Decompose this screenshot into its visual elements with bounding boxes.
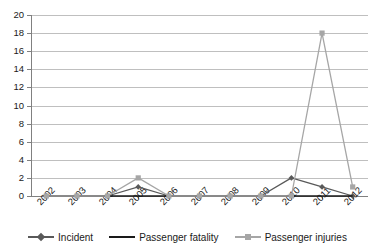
y-tick-mark [27,69,31,70]
gridline [31,69,368,70]
gridline [31,160,368,161]
legend-item-incident[interactable]: Incident [28,232,93,243]
y-tick-label: 18 [0,28,24,38]
legend-item-passenger-injuries[interactable]: Passenger injuries [235,232,347,243]
legend-item-passenger-fatality[interactable]: Passenger fatality [109,232,219,243]
y-tick-label: 4 [0,155,24,165]
gridline [31,51,368,52]
y-tick-mark [27,124,31,125]
y-tick-mark [27,196,31,197]
gridline [31,106,368,107]
y-tick-mark [27,33,31,34]
y-axis-line [31,15,32,196]
y-tick-mark [27,51,31,52]
y-tick-label: 12 [0,82,24,92]
y-tick-label: 20 [0,10,24,20]
y-tick-mark [27,178,31,179]
gridline [31,87,368,88]
gridline [31,178,368,179]
y-tick-label: 14 [0,64,24,74]
legend-swatch-icon [109,232,135,242]
y-tick-mark [27,142,31,143]
legend-label: Incident [58,232,93,243]
legend-label: Passenger fatality [139,232,219,243]
y-tick-label: 10 [0,101,24,111]
legend-swatch-icon [28,232,54,242]
legend-label: Passenger injuries [265,232,347,243]
y-tick-label: 8 [0,119,24,129]
y-tick-mark [27,87,31,88]
gridline [31,142,368,143]
y-tick-label: 16 [0,46,24,56]
y-tick-mark [27,106,31,107]
gridline [31,33,368,34]
gridline [31,15,368,16]
y-tick-label: 6 [0,137,24,147]
y-tick-label: 0 [0,191,24,201]
plot-area [31,15,368,196]
gridline [31,124,368,125]
y-tick-label: 2 [0,173,24,183]
legend-swatch-icon [235,232,261,242]
y-tick-mark [27,160,31,161]
y-tick-mark [27,15,31,16]
chart-legend: IncidentPassenger fatalityPassenger inju… [0,228,375,246]
line-chart: 02468101214161820 2002200320042005200620… [0,0,375,251]
